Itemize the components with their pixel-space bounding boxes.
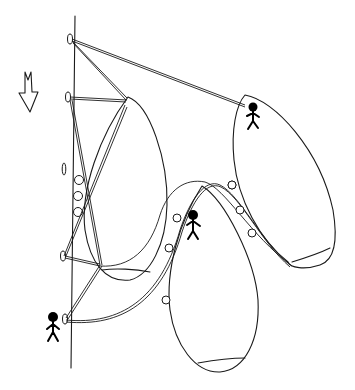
loop-left bbox=[84, 97, 167, 280]
wall-ring bbox=[74, 208, 83, 217]
rope-loop-to-anchor5 bbox=[66, 265, 100, 318]
anchor-bolt-1 bbox=[68, 34, 73, 44]
climber-right-loop bbox=[247, 103, 259, 130]
rope-ring bbox=[248, 229, 256, 237]
climber-middle-loop bbox=[187, 210, 200, 239]
climber-wall-bottom bbox=[47, 312, 59, 341]
wall-ring bbox=[74, 192, 83, 201]
loop-right-base bbox=[292, 248, 330, 262]
wall-ring bbox=[75, 176, 84, 185]
down-arrow-icon bbox=[19, 72, 38, 112]
rope-top-to-right-loop-strand bbox=[72, 41, 245, 107]
rope-ring bbox=[165, 244, 173, 252]
rope-ring bbox=[236, 206, 244, 214]
loop-middle bbox=[169, 186, 258, 372]
rope-top-to-right-loop bbox=[72, 39, 245, 105]
anchor-bolt-3 bbox=[62, 163, 66, 175]
wall-line bbox=[71, 16, 75, 368]
diagram-canvas bbox=[0, 0, 355, 390]
rope-cross-a bbox=[70, 100, 100, 265]
rope-strand bbox=[65, 258, 100, 266]
rope-strand bbox=[68, 266, 102, 319]
anchor-bolt-4 bbox=[61, 251, 66, 261]
loop-right bbox=[233, 95, 335, 268]
rope-ring bbox=[228, 181, 236, 189]
rope-ring bbox=[173, 214, 181, 222]
loop-middle-base bbox=[198, 358, 245, 363]
rope-ring bbox=[162, 296, 170, 304]
loop-left-base bbox=[102, 269, 150, 272]
